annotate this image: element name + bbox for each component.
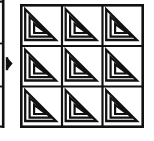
cell-r2c2 [66, 50, 97, 81]
nested-triangle-icon [25, 9, 56, 40]
figure-canvas: Nested triangle 3x3 matrix figure [0, 0, 154, 141]
nested-triangle-icon [25, 50, 56, 81]
cell-r2c1 [25, 50, 56, 81]
cell-r3c2 [66, 90, 97, 121]
nested-triangle-icon [106, 90, 137, 121]
nested-triangle-icon [106, 9, 137, 40]
cell-r2c3 [106, 50, 137, 81]
diamond-pointer-icon [7, 57, 13, 70]
cell-r1c3 [106, 9, 137, 40]
matrix-grid [21, 5, 142, 126]
cell-r3c3 [106, 90, 137, 121]
cropped-neighbor-figure [0, 0, 3, 128]
nested-triangle-icon [106, 50, 137, 81]
cell-r1c1 [25, 9, 56, 40]
nested-triangle-icon [66, 50, 97, 81]
nested-triangle-icon [66, 90, 97, 121]
pattern-matrix-figure [0, 0, 154, 141]
nested-triangle-icon [25, 90, 56, 121]
nested-triangle-icon [66, 9, 97, 40]
cell-r3c1 [25, 90, 56, 121]
cell-r1c2 [66, 9, 97, 40]
